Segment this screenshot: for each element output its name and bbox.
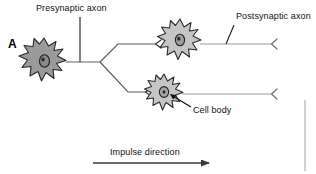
postsynaptic-axon-leader-line <box>226 25 234 44</box>
label-postsynaptic-axon: Postsynaptic axon <box>236 12 311 21</box>
neuron-synapse-diagram: A Presynaptic axon Postsynaptic axon Cel… <box>0 0 316 174</box>
presynaptic-neuron-soma <box>19 38 66 81</box>
postsynaptic-upper-nucleolus <box>177 37 180 41</box>
presynaptic-nucleus <box>40 55 50 68</box>
label-cell-body: Cell body <box>193 106 231 115</box>
axon-branch-upper <box>100 44 156 62</box>
label-presynaptic-axon: Presynaptic axon <box>36 4 107 13</box>
postsynaptic-terminal-upper-icon <box>272 39 278 49</box>
postsynaptic-lower-nucleolus <box>163 90 166 94</box>
axon-branch-lower <box>100 62 146 92</box>
label-impulse-direction: Impulse direction <box>110 148 180 157</box>
axon-branches <box>100 44 156 92</box>
postsynaptic-neuron-soma-upper <box>158 19 202 60</box>
postsynaptic-neuron-soma-lower <box>145 74 184 110</box>
presynaptic-nucleolus <box>41 57 44 61</box>
postsynaptic-terminal-lower-icon <box>272 89 278 99</box>
panel-letter-a: A <box>8 38 17 50</box>
